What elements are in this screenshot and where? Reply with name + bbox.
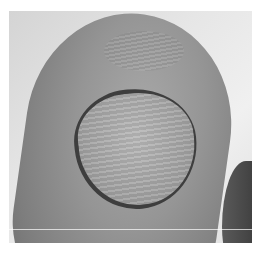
adjacent-toe xyxy=(222,161,252,243)
scan-artifact-line xyxy=(9,229,252,230)
photo xyxy=(9,11,252,243)
skin-ridges xyxy=(104,31,184,71)
